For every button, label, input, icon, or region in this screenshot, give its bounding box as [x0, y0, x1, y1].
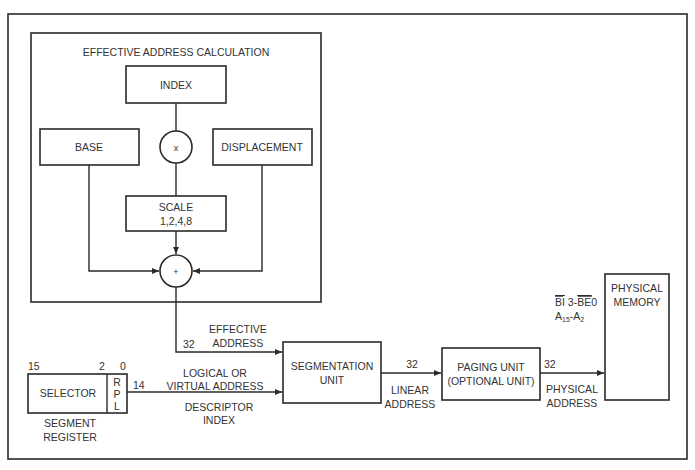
effective-address-label-2: ADDRESS — [213, 337, 264, 349]
physical-memory-label-1: PHYSICAL — [611, 282, 663, 294]
ea-group-title: EFFECTIVE ADDRESS CALCULATION — [83, 46, 270, 58]
effective-address-width: 32 — [183, 338, 195, 350]
paging-unit-label-2: (OPTIONAL UNIT) — [447, 375, 534, 387]
effective-address-label-1: EFFECTIVE — [209, 323, 267, 335]
segment-register-caption-1: SEGMENT — [44, 417, 97, 429]
multiply-symbol: x — [174, 143, 179, 153]
physical-address-label-1: PHYSICAL — [546, 383, 598, 395]
index-label: INDEX — [160, 79, 192, 91]
segmentation-unit-label-2: UNIT — [320, 374, 345, 386]
base-label: BASE — [75, 141, 103, 153]
physical-memory-label-2: MEMORY — [613, 296, 660, 308]
displacement-label: DISPLACEMENT — [221, 141, 303, 153]
physical-address-width: 32 — [544, 358, 556, 370]
segment-register-caption-2: REGISTER — [43, 431, 97, 443]
bit-15-label: 15 — [28, 360, 40, 372]
scale-label: SCALE — [159, 201, 193, 213]
selector-label: SELECTOR — [40, 387, 97, 399]
paging-unit-label-1: PAGING UNIT — [457, 361, 525, 373]
linear-address-label-1: LINEAR — [391, 384, 429, 396]
add-symbol: + — [173, 267, 178, 277]
address-line-signals: A15-A2 — [555, 310, 584, 323]
rpl-l: L — [114, 400, 120, 412]
address-translation-diagram: EFFECTIVE ADDRESS CALCULATION INDEX x BA… — [0, 0, 695, 470]
rpl-r: R — [113, 376, 121, 388]
physical-address-label-2: ADDRESS — [547, 397, 598, 409]
linear-address-width: 32 — [406, 358, 418, 370]
segmentation-unit-label-1: SEGMENTATION — [291, 360, 373, 372]
rpl-p: P — [113, 388, 120, 400]
descriptor-index-label-1: DESCRIPTOR — [185, 401, 254, 413]
scale-values: 1,2,4,8 — [160, 215, 192, 227]
logical-address-width: 14 — [133, 379, 145, 391]
linear-address-label-2: ADDRESS — [385, 398, 436, 410]
bit-2-label: 2 — [99, 360, 105, 372]
logical-address-label-1: LOGICAL OR — [183, 367, 247, 379]
logical-address-label-2: VIRTUAL ADDRESS — [167, 380, 264, 392]
descriptor-index-label-2: INDEX — [203, 414, 235, 426]
paging-unit-box — [442, 348, 540, 400]
bit-0-label: 0 — [120, 360, 126, 372]
segmentation-unit-box — [283, 342, 381, 403]
byte-enable-signals: BI 3-BE0 — [555, 296, 597, 308]
